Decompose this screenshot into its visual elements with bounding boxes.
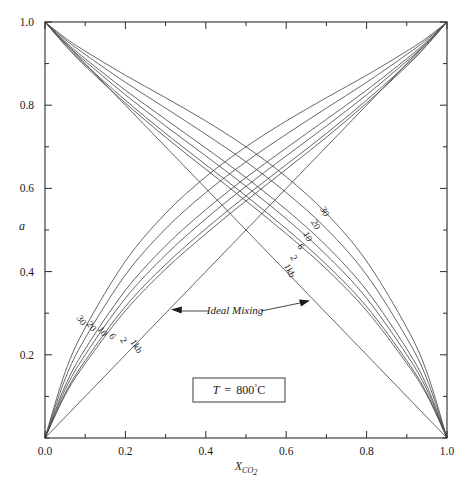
x-tick-label-0.4: 0.4: [199, 445, 214, 457]
y-tick-label-0.4: 0.4: [20, 266, 35, 278]
y-tick-label-0.8: 0.8: [20, 99, 35, 111]
x-tick-label-0.6: 0.6: [279, 445, 294, 457]
ideal-mixing-label: Ideal Mixing: [206, 304, 264, 316]
condition-celsius: C: [257, 383, 265, 397]
chart-svg: 0.00.20.40.60.81.00.20.40.60.81.0 302010…: [0, 0, 470, 489]
x-tick-label-0.0: 0.0: [38, 445, 53, 457]
activity-composition-diagram: 0.00.20.40.60.81.00.20.40.60.81.0 302010…: [0, 0, 470, 489]
y-tick-label-0.2: 0.2: [20, 349, 35, 361]
x-tick-label-0.8: 0.8: [359, 445, 374, 457]
condition-box: T=800°C: [193, 378, 285, 402]
x-axis-label-sub: CO: [242, 466, 253, 475]
y-tick-label-0.6: 0.6: [20, 182, 35, 194]
x-axis-label-sub2: 2: [253, 468, 257, 477]
condition-temperature: 800: [236, 383, 254, 397]
x-tick-label-0.2: 0.2: [118, 445, 133, 457]
y-tick-label-1.0: 1.0: [20, 16, 35, 28]
x-tick-label-1.0: 1.0: [440, 445, 455, 457]
y-axis-label: a: [19, 219, 25, 233]
condition-equals: =: [224, 383, 231, 397]
